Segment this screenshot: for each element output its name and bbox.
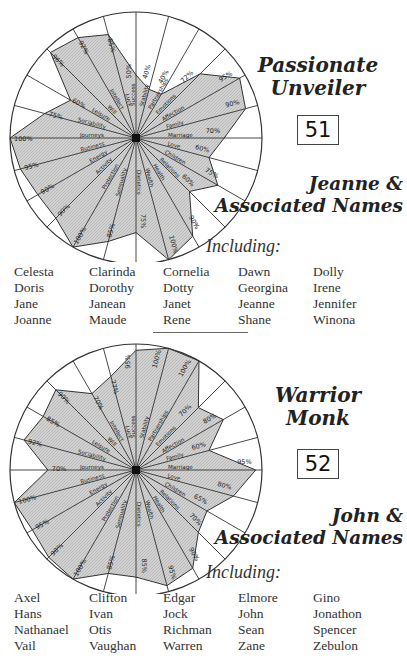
value-label: 100% xyxy=(14,135,33,143)
including-label: Including: xyxy=(206,236,281,257)
group-name-line2: Associated Names xyxy=(203,195,403,217)
names-column: DollyIreneJenniferWinona xyxy=(313,264,356,328)
names-column: CorneliaDottyJanetRene xyxy=(163,264,210,328)
name-item: Georgina xyxy=(238,280,288,296)
name-item: Ivan xyxy=(89,606,136,622)
name-item: Nathanael xyxy=(14,622,69,638)
names-column: DawnGeorginaJeanneShane xyxy=(238,264,288,328)
name-item: Vaughan xyxy=(89,638,136,654)
name-item: Jock xyxy=(163,606,212,622)
value-label: 70% xyxy=(206,127,220,135)
name-item: Jeanne xyxy=(238,296,288,312)
name-item: Elmore xyxy=(238,590,278,606)
name-item: Vail xyxy=(14,638,69,654)
persona-title-line1: Passionate xyxy=(243,54,393,77)
spoke-label: Journeys xyxy=(79,132,104,139)
names-column: ClarindaDorothyJaneanMaude xyxy=(89,264,136,328)
name-item: Doris xyxy=(14,280,54,296)
name-item: Axel xyxy=(14,590,69,606)
center-hub xyxy=(132,134,140,142)
radar-chart-passionate-unveiler: Success50%Stability40%Partnerships40%Emo… xyxy=(0,0,280,262)
name-item: Irene xyxy=(313,280,356,296)
radar-chart-warrior-monk: Success95%Stability100%Partnerships100%E… xyxy=(0,324,280,594)
name-item: Spencer xyxy=(313,622,362,638)
persona-title: Warrior Monk xyxy=(243,384,393,430)
persona-title-line1: Warrior xyxy=(243,384,393,407)
name-item: Janet xyxy=(163,296,210,312)
name-item: Jane xyxy=(14,296,54,312)
names-column: ElmoreJohnSeanZane xyxy=(238,590,278,654)
including-label: Including: xyxy=(206,562,281,583)
persona-title-line2: Unveiler xyxy=(243,77,393,100)
names-column: EdgarJockRichmanWarren xyxy=(163,590,212,654)
name-item: Edgar xyxy=(163,590,212,606)
name-item: Clarinda xyxy=(89,264,136,280)
spoke-label: Dietetics xyxy=(136,502,142,527)
spoke-label: Dietetics xyxy=(136,170,142,195)
name-item: Otis xyxy=(89,622,136,638)
chart-section-52: Success95%Stability100%Partnerships100%E… xyxy=(0,328,407,658)
name-item: John xyxy=(238,606,278,622)
names-column: GinoJonathonSpencerZebulon xyxy=(313,590,362,654)
name-item: Dawn xyxy=(238,264,288,280)
persona-title-line2: Monk xyxy=(243,407,393,430)
name-item: Zebulon xyxy=(313,638,362,654)
name-item: Dolly xyxy=(313,264,356,280)
persona-title: Passionate Unveiler xyxy=(243,54,393,100)
group-name-line1: Jeanne & xyxy=(203,173,403,195)
value-label: 75% xyxy=(139,214,147,228)
name-item: Winona xyxy=(313,312,356,328)
name-item: Richman xyxy=(163,622,212,638)
name-item: Cornelia xyxy=(163,264,210,280)
name-item: Clifton xyxy=(89,590,136,606)
name-item: Dotty xyxy=(163,280,210,296)
chart-section-51: Success50%Stability40%Partnerships40%Emo… xyxy=(0,0,407,330)
name-item: Jennifer xyxy=(313,296,356,312)
name-item: Dorothy xyxy=(89,280,136,296)
name-item: Warren xyxy=(163,638,212,654)
name-item: Hans xyxy=(14,606,69,622)
spoke-label: Journeys xyxy=(79,464,104,471)
name-item: Gino xyxy=(313,590,362,606)
group-name: John & Associated Names xyxy=(203,505,403,549)
group-name-line1: John & xyxy=(203,505,403,527)
spoke-label: Marriage xyxy=(168,132,193,139)
value-label: 85% xyxy=(140,559,148,573)
name-item: Jonathon xyxy=(313,606,362,622)
group-name: Jeanne & Associated Names xyxy=(203,173,403,217)
group-name-line2: Associated Names xyxy=(203,527,403,549)
spoke-label: Marriage xyxy=(168,464,193,471)
center-hub xyxy=(132,466,140,474)
name-item: Zane xyxy=(238,638,278,654)
name-item: Celesta xyxy=(14,264,54,280)
names-column: CliftonIvanOtisVaughan xyxy=(89,590,136,654)
name-item: Sean xyxy=(238,622,278,638)
name-item: Janean xyxy=(89,296,136,312)
names-column: CelestaDorisJaneJoanne xyxy=(14,264,54,328)
persona-number: 52 xyxy=(297,449,339,479)
value-label: 40% xyxy=(141,64,152,80)
persona-number: 51 xyxy=(297,115,339,145)
value-label: 95% xyxy=(124,354,132,368)
value-label: 50% xyxy=(125,64,133,78)
value-label: 95% xyxy=(237,458,251,466)
names-column: AxelHansNathanaelVail xyxy=(14,590,69,654)
value-label: 70% xyxy=(52,465,66,473)
